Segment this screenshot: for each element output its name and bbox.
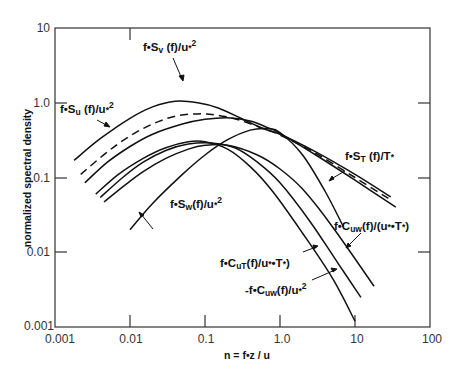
y-tick-label: 1.0 — [33, 96, 50, 110]
label-cuw: -f•Cuw(f)/u*2 — [245, 281, 307, 298]
annotation-labels: f•Su (f)/u*2 f•Sv (f)/u*2 f•ST (f)/T* f•… — [60, 38, 409, 298]
x-tick-label: 10 — [350, 332, 364, 346]
x-tick-label: 100 — [422, 332, 442, 346]
plot-frame — [55, 28, 430, 327]
y-tick-label: 0.1 — [33, 171, 50, 185]
label-sv: f•Sv (f)/u*2 — [143, 38, 196, 55]
y-axis-title: normalized spectral density — [21, 109, 33, 247]
curve-0 — [74, 101, 391, 197]
x-tick-label: 0.1 — [198, 332, 215, 346]
x-tick-label: 0.01 — [119, 332, 143, 346]
x-axis-title: n = f•z / u — [224, 349, 270, 361]
curve-2 — [85, 118, 396, 208]
x-tick-label: 1.0 — [274, 332, 291, 346]
curve-6 — [130, 128, 343, 229]
label-st: f•ST (f)/T* — [345, 150, 395, 164]
spectral-density-chart: 10 1.0 0.1 0.01 0.001 0.001 0.01 0.1 1.0… — [0, 0, 463, 375]
x-tick-labels: 0.001 0.01 0.1 1.0 10 100 — [45, 332, 442, 346]
y-tick-label: 0.001 — [24, 319, 54, 333]
label-cut: f•CuT(f)/u*•T*) — [220, 257, 290, 271]
y-tick-label: 10 — [37, 21, 51, 35]
x-ticks — [130, 28, 355, 327]
curve-4 — [100, 143, 361, 298]
label-sw: f•Sw(f)/u*2 — [170, 195, 222, 212]
curves — [74, 101, 396, 321]
label-su: f•Su (f)/u*2 — [60, 100, 114, 117]
label-cuw-t: f•Cuw(f)/(u*•T*) — [334, 220, 409, 234]
annotation-arrows — [97, 58, 361, 280]
x-tick-label: 0.001 — [45, 332, 75, 346]
